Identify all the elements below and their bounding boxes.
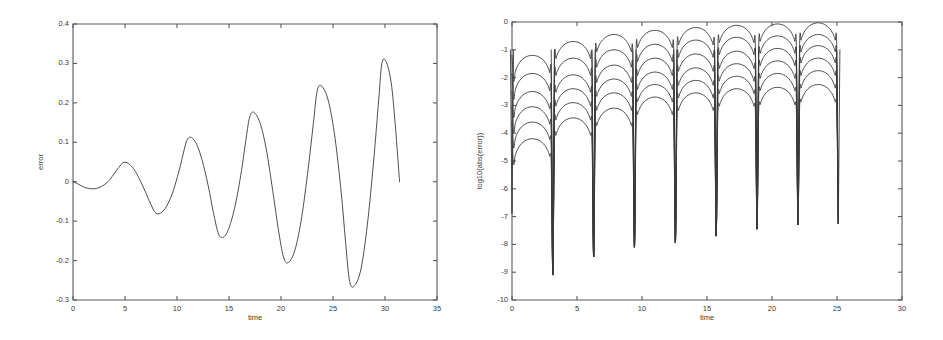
x-tick-label: 0 (510, 304, 514, 313)
y-axis-label: log10(abs(error)) (475, 132, 484, 189)
x-tick-label: 5 (123, 304, 127, 313)
x-axis-label: time (248, 313, 262, 322)
cusp-spike (837, 50, 840, 224)
x-tick-label: 10 (638, 304, 646, 313)
x-axis-label: time (700, 313, 714, 322)
y-tick-label: 0 (504, 17, 508, 26)
x-tick-label: 25 (833, 304, 841, 313)
y-axis-label: error (36, 154, 45, 170)
y-tick-label: -2 (501, 73, 508, 82)
right-chart-panel: 051015202530-10-9-8-7-6-5-4-3-2-10timelo… (470, 0, 943, 340)
y-tick-label: -3 (501, 100, 508, 109)
plot-box (512, 22, 902, 300)
cusp-spike (592, 50, 595, 257)
y-tick-label: -4 (501, 128, 508, 137)
plot-box (73, 24, 437, 300)
x-tick-label: 25 (329, 304, 337, 313)
x-tick-label: 35 (433, 304, 441, 313)
y-tick-label: -5 (501, 156, 508, 165)
x-tick-label: 5 (575, 304, 579, 313)
x-tick-label: 15 (703, 304, 711, 313)
y-tick-label: 0.4 (59, 19, 69, 28)
cusp-spike (796, 50, 799, 225)
y-tick-label: 0.3 (59, 58, 69, 67)
y-tick-label: -0.3 (56, 295, 69, 304)
y-tick-label: -8 (501, 239, 508, 248)
x-tick-label: 15 (225, 304, 233, 313)
error-curve (73, 59, 400, 287)
y-tick-label: -0.1 (56, 216, 69, 225)
right-chart-svg: 051015202530-10-9-8-7-6-5-4-3-2-10timelo… (470, 0, 943, 340)
y-tick-label: -7 (501, 212, 508, 221)
y-tick-label: 0 (65, 177, 69, 186)
cusp-spike (715, 50, 718, 236)
figure-container: 05101520253035-0.3-0.2-0.100.10.20.30.4t… (0, 0, 943, 340)
y-tick-label: 0.2 (59, 98, 69, 107)
cusp-spike (674, 50, 677, 243)
cusp-spike (551, 50, 554, 275)
left-chart-panel: 05101520253035-0.3-0.2-0.100.10.20.30.4t… (0, 0, 470, 340)
y-tick-label: -9 (501, 267, 508, 276)
cusp-spike (633, 50, 636, 247)
left-chart-svg: 05101520253035-0.3-0.2-0.100.10.20.30.4t… (0, 0, 470, 340)
x-tick-label: 0 (71, 304, 75, 313)
y-tick-label: 0.1 (59, 137, 69, 146)
x-tick-label: 30 (898, 304, 906, 313)
y-tick-label: -6 (501, 184, 508, 193)
y-tick-label: -0.2 (56, 256, 69, 265)
x-tick-label: 10 (173, 304, 181, 313)
x-tick-label: 20 (277, 304, 285, 313)
y-tick-label: -1 (501, 45, 508, 54)
x-tick-label: 30 (381, 304, 389, 313)
x-tick-label: 20 (768, 304, 776, 313)
cusp-spike (755, 50, 758, 229)
y-tick-label: -10 (497, 295, 508, 304)
